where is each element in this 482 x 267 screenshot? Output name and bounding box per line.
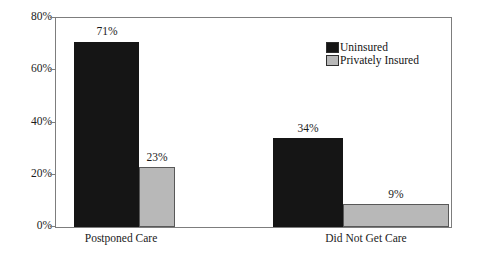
bar-value-did-not-get-care-uninsured: 34% — [273, 123, 343, 135]
bar-postponed-care-privately-insured[interactable] — [139, 167, 175, 227]
legend-label-privately-insured: Privately Insured — [340, 55, 419, 67]
bar-value-did-not-get-care-privately-insured: 9% — [361, 189, 431, 201]
y-tick-label-80: 80% — [8, 11, 52, 23]
bar-did-not-get-care-uninsured[interactable] — [273, 138, 343, 227]
legend-swatch-icon-uninsured — [326, 42, 339, 53]
bar-chart-screenshot: 80% 60% 40% 20% 0% 71% 23% 34% 9% Postpo… — [0, 0, 482, 267]
bar-value-postponed-care-uninsured: 71% — [72, 26, 142, 38]
y-tick-label-20: 20% — [8, 168, 52, 180]
x-category-label-postponed-care: Postponed Care — [31, 233, 211, 245]
legend-swatch-icon-privately-insured — [326, 55, 339, 66]
legend-label-uninsured: Uninsured — [340, 42, 388, 54]
x-category-label-did-not-get-care: Did Not Get Care — [276, 233, 456, 245]
legend-item-privately-insured[interactable]: Privately Insured — [326, 55, 419, 67]
bar-did-not-get-care-privately-insured[interactable] — [343, 204, 449, 228]
bar-group-postponed-care: 71% 23% — [74, 18, 176, 227]
y-tick-label-60: 60% — [8, 64, 52, 76]
bar-value-postponed-care-privately-insured: 23% — [122, 152, 192, 164]
legend: Uninsured Privately Insured — [326, 42, 419, 66]
legend-item-uninsured[interactable]: Uninsured — [326, 42, 419, 54]
y-tick-label-0: 0% — [8, 220, 52, 232]
bar-postponed-care-uninsured[interactable] — [74, 42, 139, 228]
y-axis: 80% 60% 40% 20% 0% — [0, 17, 52, 228]
y-tick-label-40: 40% — [8, 116, 52, 128]
